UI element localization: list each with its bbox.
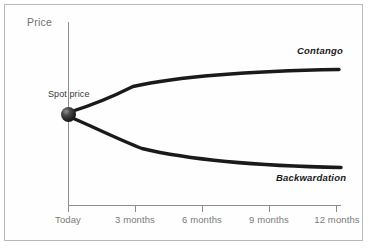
- backwardation-series-label: Backwardation: [276, 172, 346, 183]
- x-tick-label-3-months: 3 months: [115, 214, 155, 225]
- contango-series-label: Contango: [297, 45, 343, 56]
- contango-curve: [70, 70, 339, 113]
- chart-figure: Price Spot price Contango Backwardation …: [0, 0, 369, 250]
- spot-price-label: Spot price: [48, 89, 90, 99]
- chart-plot-area: [0, 0, 369, 250]
- x-tick-label-6-months: 6 months: [182, 214, 222, 225]
- y-axis-title: Price: [27, 16, 52, 28]
- backwardation-curve: [70, 117, 341, 168]
- x-axis-ticks: [69, 206, 337, 213]
- spot-price-marker: [61, 107, 76, 122]
- x-tick-label-today: Today: [55, 214, 81, 225]
- x-tick-label-12-months: 12 months: [314, 214, 359, 225]
- x-tick-label-9-months: 9 months: [249, 214, 289, 225]
